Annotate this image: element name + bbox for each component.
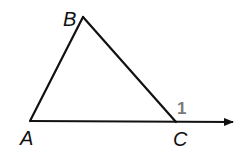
- label-c: C: [173, 128, 188, 150]
- label-a: A: [19, 127, 33, 149]
- label-b: B: [63, 8, 76, 30]
- angle-1-label: 1: [177, 99, 186, 118]
- side-bc: [83, 17, 176, 122]
- ray-ac-extended: [30, 121, 233, 122]
- triangle-diagram: B A C 1: [0, 0, 246, 154]
- side-ab: [30, 17, 83, 121]
